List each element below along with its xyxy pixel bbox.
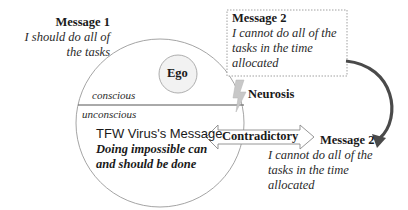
- message1-title: Message 1: [40, 15, 110, 30]
- virus-message-line1: Doing impossible can: [96, 142, 207, 157]
- message2-lower-title: Message 2: [320, 133, 375, 148]
- message2-lower-line3: allocated: [268, 178, 315, 193]
- message1-line2: the tasks: [0, 45, 110, 60]
- virus-message-title: TFW Virus's Message: [96, 126, 223, 141]
- psyche-circle: [76, 39, 244, 207]
- message1-line1: I should do all of: [0, 30, 110, 45]
- message2-box-line2: tasks in the time: [232, 41, 313, 56]
- conscious-label: conscious: [92, 88, 135, 103]
- neurosis-diagram: Message 1 I should do all of the tasks M…: [0, 0, 408, 210]
- message2-box-line1: I cannot do all of the: [232, 26, 337, 41]
- message2-lower-line2: tasks in the time: [268, 163, 349, 178]
- ego-label: Ego: [167, 66, 188, 81]
- unconscious-label: unconscious: [82, 107, 136, 122]
- virus-message-line2: and should be done: [96, 157, 196, 172]
- message2-lower-line1: I cannot do all of the: [268, 148, 373, 163]
- message2-box-line3: allocated: [232, 56, 279, 71]
- lightning-bolt-icon: [233, 80, 246, 112]
- neurosis-label: Neurosis: [248, 87, 294, 102]
- contradictory-label: Contradictory: [222, 129, 298, 144]
- message2-box-title: Message 2: [232, 11, 287, 26]
